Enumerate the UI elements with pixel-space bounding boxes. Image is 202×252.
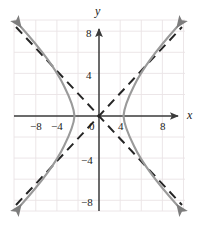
y-tick-label--4: −4	[81, 155, 93, 166]
x-tick-label--4: −4	[51, 121, 63, 132]
x-axis-label: x	[187, 109, 192, 121]
y-tick-label--8: −8	[81, 197, 93, 208]
y-tick-label-4: 4	[86, 70, 92, 81]
hyperbola-figure: x y −8 −4 4 8 8 4 −4 −8 0	[0, 0, 202, 252]
origin-label: 0	[89, 121, 95, 132]
y-axis-label: y	[95, 5, 100, 17]
x-tick-label-8: 8	[160, 121, 166, 132]
x-tick-label-4: 4	[118, 121, 124, 132]
x-tick-label--8: −8	[30, 121, 42, 132]
y-tick-label-8: 8	[86, 28, 92, 39]
